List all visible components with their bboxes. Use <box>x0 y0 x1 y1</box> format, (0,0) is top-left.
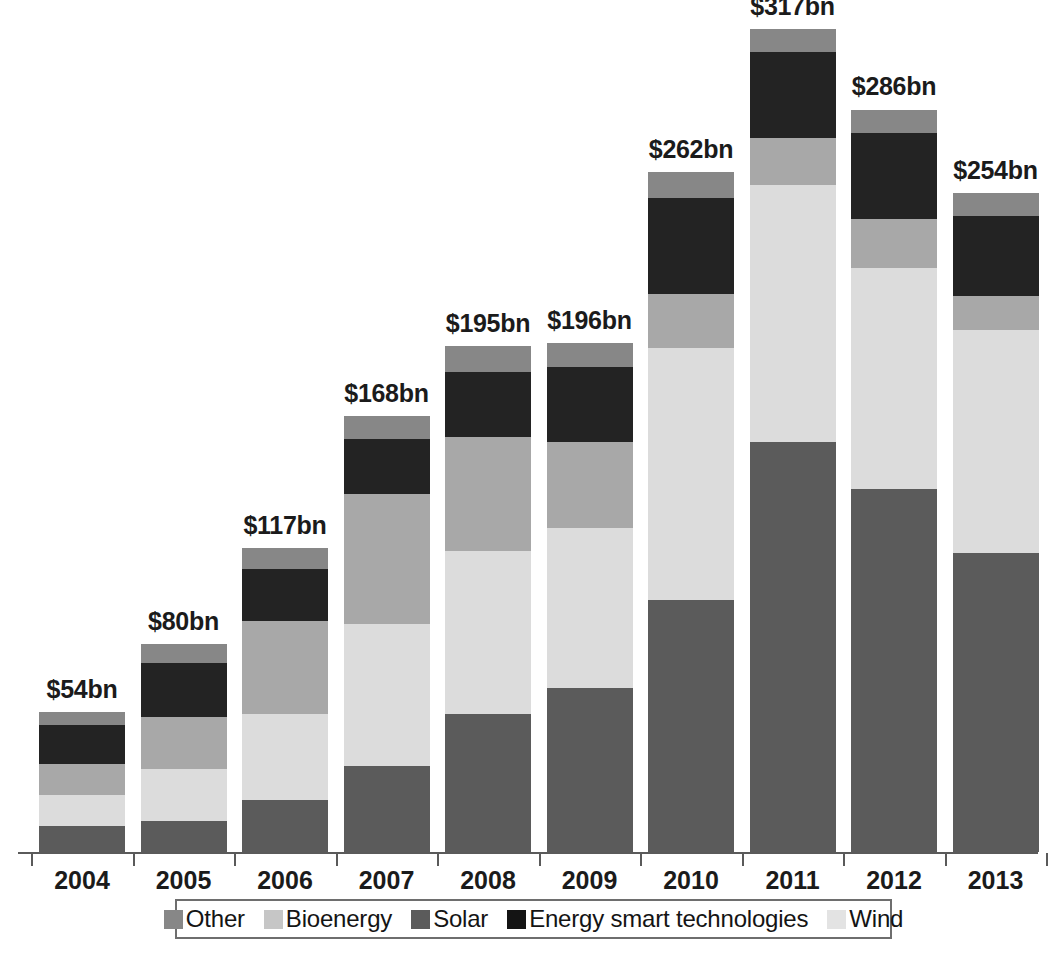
bar-segment-2008-other[interactable] <box>445 346 531 372</box>
bar-total-label-2009: $196bn <box>510 306 670 335</box>
x-tick-2007 <box>336 853 338 866</box>
bar-segment-2005-solar[interactable] <box>141 821 227 852</box>
bar-segment-2007-energy-smart-technologies[interactable] <box>344 439 430 494</box>
bar-group-2012[interactable]: $286bn <box>851 110 937 852</box>
bar-group-2010[interactable]: $262bn <box>648 172 734 852</box>
bar-segment-2004-wind[interactable] <box>39 795 125 826</box>
bar-segment-2011-wind[interactable] <box>750 185 836 442</box>
bar-segment-2005-bioenergy[interactable] <box>141 717 227 769</box>
legend-label-energy-smart-technologies: Energy smart technologies <box>529 905 808 933</box>
bar-segment-2011-bioenergy[interactable] <box>750 138 836 185</box>
bar-segment-2009-energy-smart-technologies[interactable] <box>547 367 633 442</box>
legend-label-solar: Solar <box>433 905 488 933</box>
x-tick-2013 <box>945 853 947 866</box>
bar-segment-2006-wind[interactable] <box>242 714 328 800</box>
bar-total-label-2010: $262bn <box>611 135 771 164</box>
x-tick-end <box>1046 853 1048 866</box>
x-axis-line <box>18 852 1038 854</box>
bar-stack-2011 <box>750 29 836 852</box>
bar-segment-2011-other[interactable] <box>750 29 836 52</box>
bar-group-2011[interactable]: $317bn <box>750 29 836 852</box>
bar-group-2008[interactable]: $195bn <box>445 346 531 852</box>
legend-item-other[interactable]: Other <box>164 905 245 933</box>
bar-group-2006[interactable]: $117bn <box>242 548 328 852</box>
bar-stack-2010 <box>648 172 734 852</box>
bar-stack-2007 <box>344 416 430 852</box>
bar-total-label-2007: $168bn <box>307 379 467 408</box>
bar-segment-2007-wind[interactable] <box>344 624 430 767</box>
bar-segment-2009-other[interactable] <box>547 343 633 366</box>
bar-segment-2006-bioenergy[interactable] <box>242 621 328 714</box>
bar-segment-2008-bioenergy[interactable] <box>445 437 531 551</box>
bar-segment-2007-bioenergy[interactable] <box>344 494 430 624</box>
x-tick-2006 <box>234 853 236 866</box>
bar-group-2009[interactable]: $196bn <box>547 343 633 852</box>
bar-segment-2010-energy-smart-technologies[interactable] <box>648 198 734 294</box>
bar-stack-2013 <box>953 193 1039 852</box>
bar-total-label-2005: $80bn <box>104 607 264 636</box>
bar-segment-2008-wind[interactable] <box>445 551 531 715</box>
bar-segment-2010-bioenergy[interactable] <box>648 294 734 349</box>
bar-segment-2007-solar[interactable] <box>344 766 430 852</box>
bar-segment-2010-other[interactable] <box>648 172 734 198</box>
bar-segment-2005-wind[interactable] <box>141 769 227 821</box>
legend-item-bioenergy[interactable]: Bioenergy <box>264 905 392 933</box>
bar-segment-2013-bioenergy[interactable] <box>953 296 1039 330</box>
bar-segment-2012-other[interactable] <box>851 110 937 133</box>
bar-segment-2004-bioenergy[interactable] <box>39 764 125 795</box>
bar-segment-2004-solar[interactable] <box>39 826 125 852</box>
bar-stack-2004 <box>39 712 125 852</box>
bar-group-2004[interactable]: $54bn <box>39 712 125 852</box>
bar-segment-2013-other[interactable] <box>953 193 1039 216</box>
legend-swatch-solar <box>411 910 430 929</box>
stacked-bar-chart: $54bn$80bn$117bn$168bn$195bn$196bn$262bn… <box>0 0 1055 963</box>
bar-segment-2006-other[interactable] <box>242 548 328 569</box>
bar-segment-2011-solar[interactable] <box>750 442 836 852</box>
bar-total-label-2004: $54bn <box>2 675 162 704</box>
x-tick-2010 <box>640 853 642 866</box>
bar-segment-2012-wind[interactable] <box>851 268 937 489</box>
bar-segment-2008-energy-smart-technologies[interactable] <box>445 372 531 437</box>
bar-group-2005[interactable]: $80bn <box>141 644 227 852</box>
bar-stack-2005 <box>141 644 227 852</box>
bar-segment-2013-energy-smart-technologies[interactable] <box>953 216 1039 296</box>
legend-swatch-bioenergy <box>264 910 283 929</box>
legend-swatch-wind <box>827 910 846 929</box>
bar-segment-2013-solar[interactable] <box>953 553 1039 852</box>
bar-total-label-2006: $117bn <box>205 511 365 540</box>
bar-segment-2012-solar[interactable] <box>851 489 937 852</box>
bar-stack-2009 <box>547 343 633 852</box>
x-tick-2009 <box>539 853 541 866</box>
legend-swatch-other <box>164 910 183 929</box>
bar-segment-2004-energy-smart-technologies[interactable] <box>39 725 125 764</box>
bar-segment-2006-solar[interactable] <box>242 800 328 852</box>
x-tick-2011 <box>742 853 744 866</box>
bar-segment-2013-wind[interactable] <box>953 330 1039 553</box>
bar-segment-2008-solar[interactable] <box>445 714 531 852</box>
legend-label-wind: Wind <box>849 905 903 933</box>
bar-total-label-2012: $286bn <box>814 72 974 101</box>
bar-segment-2006-energy-smart-technologies[interactable] <box>242 569 328 621</box>
x-tick-2008 <box>437 853 439 866</box>
bar-segment-2005-other[interactable] <box>141 644 227 662</box>
chart-legend: OtherBioenergySolarEnergy smart technolo… <box>175 899 892 939</box>
legend-item-wind[interactable]: Wind <box>827 905 903 933</box>
bar-group-2013[interactable]: $254bn <box>953 193 1039 852</box>
plot-area: $54bn$80bn$117bn$168bn$195bn$196bn$262bn… <box>0 0 1055 852</box>
bar-segment-2009-solar[interactable] <box>547 688 633 852</box>
bar-group-2007[interactable]: $168bn <box>344 416 430 852</box>
bar-total-label-2013: $254bn <box>916 156 1055 185</box>
bar-segment-2007-other[interactable] <box>344 416 430 439</box>
bar-stack-2006 <box>242 548 328 852</box>
bar-segment-2009-wind[interactable] <box>547 528 633 689</box>
legend-item-energy-smart-technologies[interactable]: Energy smart technologies <box>507 905 808 933</box>
bar-segment-2005-energy-smart-technologies[interactable] <box>141 663 227 718</box>
legend-swatch-energy-smart-technologies <box>507 910 526 929</box>
bar-segment-2012-bioenergy[interactable] <box>851 219 937 268</box>
x-tick-2004 <box>31 853 33 866</box>
bar-segment-2004-other[interactable] <box>39 712 125 725</box>
legend-item-solar[interactable]: Solar <box>411 905 488 933</box>
bar-segment-2010-solar[interactable] <box>648 600 734 852</box>
bar-segment-2010-wind[interactable] <box>648 348 734 600</box>
bar-segment-2009-bioenergy[interactable] <box>547 442 633 528</box>
